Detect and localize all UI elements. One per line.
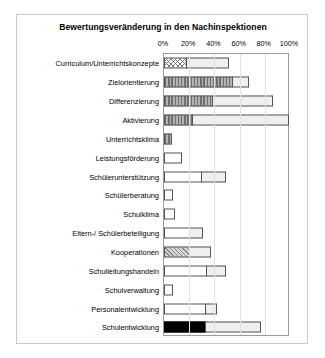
bar-row: Leistungsförderung xyxy=(164,148,288,167)
stacked-bar[interactable] xyxy=(164,190,173,201)
bar-row: Schulverwaltung xyxy=(164,280,288,299)
category-label: Schulverwaltung xyxy=(105,285,159,294)
category-label: Schulklima xyxy=(123,210,159,219)
chart-title: Bewertungsveränderung in den Nachinspekt… xyxy=(17,22,309,32)
stacked-bar[interactable] xyxy=(164,322,261,333)
bar-row: Schulklima xyxy=(164,205,288,224)
bar-segment-2 xyxy=(205,322,262,333)
bar-row: Unterrichtsklima xyxy=(164,129,288,148)
gridline-60 xyxy=(240,54,241,335)
bar-segment-1 xyxy=(164,77,233,88)
bar-segment-1 xyxy=(164,152,182,163)
bar-segment-2 xyxy=(189,247,210,258)
bar-segment-1 xyxy=(164,265,207,276)
bar-segment-2 xyxy=(206,265,226,276)
plot-area: Curriculum/UnterrichtskonzepteZielorient… xyxy=(163,53,289,336)
bar-segment-1 xyxy=(164,247,190,258)
stacked-bar[interactable] xyxy=(164,58,229,69)
bar-segment-1 xyxy=(164,322,206,333)
x-tick-100: 100% xyxy=(280,39,298,48)
bar-row: Personalentwicklung xyxy=(164,299,288,318)
x-tick-60: 60% xyxy=(231,39,245,48)
gridline-80 xyxy=(265,54,266,335)
bar-row: Schulleitungshandeln xyxy=(164,261,288,280)
bar-segment-2 xyxy=(186,58,229,69)
stacked-bar[interactable] xyxy=(164,265,226,276)
bar-segment-2 xyxy=(212,96,272,107)
stacked-bar[interactable] xyxy=(164,247,211,258)
stacked-bar[interactable] xyxy=(164,152,182,163)
bar-row: Zielorientierung xyxy=(164,73,288,92)
stacked-bar[interactable] xyxy=(164,228,203,239)
category-label: Schülerunterstützung xyxy=(89,172,159,181)
category-label: Personalentwicklung xyxy=(91,304,159,313)
x-tick-0: 0% xyxy=(158,39,168,48)
bar-segment-1 xyxy=(164,228,190,239)
category-label: Curriculum/Unterrichtskonzepte xyxy=(55,59,159,68)
stacked-bar[interactable] xyxy=(164,96,273,107)
bar-segment-2 xyxy=(189,228,203,239)
bar-segment-1 xyxy=(164,209,175,220)
category-label: Schülerberatung xyxy=(105,191,159,200)
bar-segment-1 xyxy=(164,284,173,295)
bar-rows: Curriculum/UnterrichtskonzepteZielorient… xyxy=(164,54,288,335)
bar-row: Schülerunterstützung xyxy=(164,167,288,186)
bar-row: Schülerberatung xyxy=(164,186,288,205)
category-label: Leistungsförderung xyxy=(96,153,159,162)
gridline-20 xyxy=(189,54,190,335)
bar-row: Eltern-/ Schülerbeteiligung xyxy=(164,224,288,243)
stacked-bar[interactable] xyxy=(164,284,173,295)
bar-row: Curriculum/Unterrichtskonzepte xyxy=(164,54,288,73)
bar-segment-1 xyxy=(164,58,187,69)
x-tick-40: 40% xyxy=(206,39,220,48)
bar-row: Aktivierung xyxy=(164,111,288,130)
category-label: Zielorientierung xyxy=(108,78,159,87)
bar-row: Kooperationen xyxy=(164,243,288,262)
bar-row: Differenzierung xyxy=(164,92,288,111)
category-label: Schulleitungshandeln xyxy=(89,266,159,275)
stacked-bar[interactable] xyxy=(164,133,172,144)
bar-segment-1 xyxy=(164,133,172,144)
stacked-bar[interactable] xyxy=(164,209,175,220)
category-label: Unterrichtsklima xyxy=(106,134,159,143)
stacked-bar[interactable] xyxy=(164,77,249,88)
x-tick-80: 80% xyxy=(257,39,271,48)
chart-frame: Bewertungsveränderung in den Nachinspekt… xyxy=(16,14,308,344)
bar-segment-1 xyxy=(164,303,206,314)
category-label: Eltern-/ Schülerbeteiligung xyxy=(72,229,159,238)
x-axis-tick-labels: 0%20%40%60%80%100% xyxy=(163,39,291,53)
bar-segment-1 xyxy=(164,190,173,201)
gridline-40 xyxy=(214,54,215,335)
stacked-bar[interactable] xyxy=(164,115,289,126)
category-label: Differenzierung xyxy=(109,97,159,106)
bar-row: Schulentwicklung xyxy=(164,318,288,337)
stacked-bar[interactable] xyxy=(164,171,226,182)
bar-segment-2 xyxy=(201,171,226,182)
category-label: Schulentwicklung xyxy=(102,323,159,332)
category-label: Kooperationen xyxy=(111,248,159,257)
stacked-bar[interactable] xyxy=(164,303,217,314)
category-label: Aktivierung xyxy=(122,116,159,125)
bar-segment-1 xyxy=(164,171,202,182)
x-tick-20: 20% xyxy=(181,39,195,48)
